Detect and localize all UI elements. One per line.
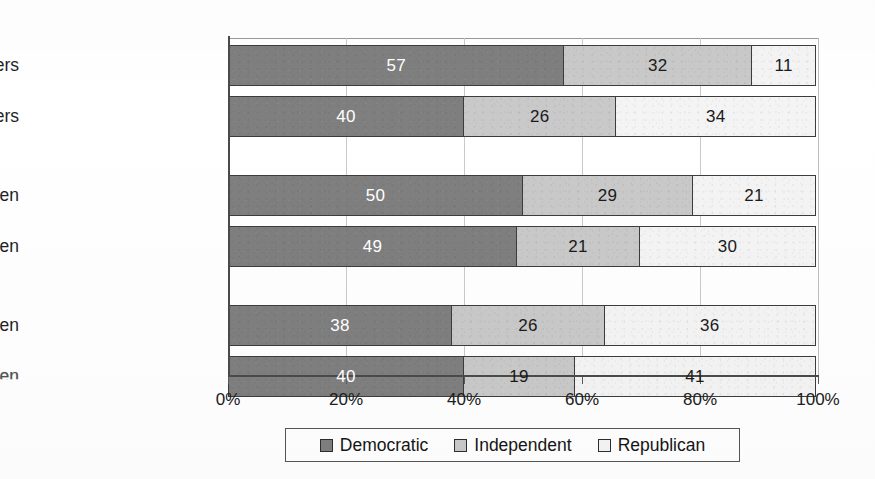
plot-area: 573211402634502921492130382636401941 (228, 38, 818, 375)
bar-value-label: 57 (386, 56, 406, 76)
bar-row: 502921 (228, 175, 818, 216)
bar-value-label: 50 (366, 186, 386, 206)
category-label: LGBTQ Gen Zers (0, 55, 19, 76)
gridline-100pct (818, 38, 819, 375)
bar-segment-democratic: 57 (228, 45, 564, 86)
plot-top-rule (228, 38, 818, 39)
bar-segment-independent: 29 (522, 175, 693, 216)
category-label: Non–Gen Z men (0, 366, 19, 387)
bar-segment-republican: 30 (639, 226, 816, 267)
bar-value-label: 41 (685, 367, 705, 387)
bar-segment-independent: 26 (463, 96, 616, 137)
bar-value-label: 40 (336, 367, 356, 387)
bar-row: 492130 (228, 226, 818, 267)
legend-swatch-icon (454, 439, 467, 452)
bar-row: 402634 (228, 96, 818, 137)
x-tick-label: 20% (301, 390, 391, 410)
x-tick-label: 0% (183, 390, 273, 410)
legend-item-independent[interactable]: Independent (454, 435, 571, 456)
legend-label: Republican (618, 435, 706, 456)
x-tick-label: 100% (773, 390, 863, 410)
bar-segment-democratic: 40 (228, 96, 464, 137)
x-tick-mark (464, 377, 465, 384)
stacked-bar-chart: 573211402634502921492130382636401941 LGB… (0, 0, 875, 479)
bar-segment-independent: 26 (451, 305, 604, 346)
legend-swatch-icon (320, 439, 333, 452)
legend-item-republican[interactable]: Republican (598, 435, 706, 456)
category-label: Gen Z men (0, 315, 19, 336)
bar-value-label: 32 (648, 56, 668, 76)
bar-segment-independent: 32 (563, 45, 752, 86)
x-tick-mark (582, 377, 583, 384)
bar-value-label: 49 (363, 237, 383, 257)
bar-segment-democratic: 50 (228, 175, 523, 216)
legend-label: Democratic (340, 435, 429, 456)
bar-value-label: 11 (774, 56, 792, 76)
x-tick-label: 40% (419, 390, 509, 410)
category-label: Gen Z women (0, 185, 19, 206)
bar-value-label: 36 (700, 316, 720, 336)
legend-label: Independent (474, 435, 571, 456)
x-tick-label: 80% (655, 390, 745, 410)
legend-item-democratic[interactable]: Democratic (320, 435, 429, 456)
bar-segment-democratic: 49 (228, 226, 517, 267)
bar-value-label: 34 (706, 107, 726, 127)
bar-segment-democratic: 38 (228, 305, 452, 346)
x-tick-mark (228, 377, 229, 384)
bar-segment-republican: 11 (751, 45, 816, 86)
x-tick-label: 60% (537, 390, 627, 410)
bar-segment-republican: 21 (692, 175, 816, 216)
bar-value-label: 26 (530, 107, 550, 127)
category-label: Straight Gen Zers (0, 106, 19, 127)
bar-row: 382636 (228, 305, 818, 346)
bar-segment-republican: 36 (604, 305, 816, 346)
x-tick-mark (818, 377, 819, 384)
bar-row: 573211 (228, 45, 818, 86)
bar-value-label: 21 (744, 186, 764, 206)
chart-legend: DemocraticIndependentRepublican (285, 428, 740, 462)
category-label: Non–Gen Z women (0, 236, 19, 257)
bar-segment-republican: 34 (615, 96, 816, 137)
bar-value-label: 30 (718, 237, 738, 257)
y-axis-line (228, 36, 230, 377)
bar-value-label: 38 (330, 316, 350, 336)
bar-value-label: 29 (598, 186, 618, 206)
bar-value-label: 21 (568, 237, 588, 257)
legend-swatch-icon (598, 439, 611, 452)
bar-segment-independent: 21 (516, 226, 640, 267)
bar-value-label: 19 (509, 367, 529, 387)
bar-value-label: 40 (336, 107, 356, 127)
bar-value-label: 26 (518, 316, 538, 336)
